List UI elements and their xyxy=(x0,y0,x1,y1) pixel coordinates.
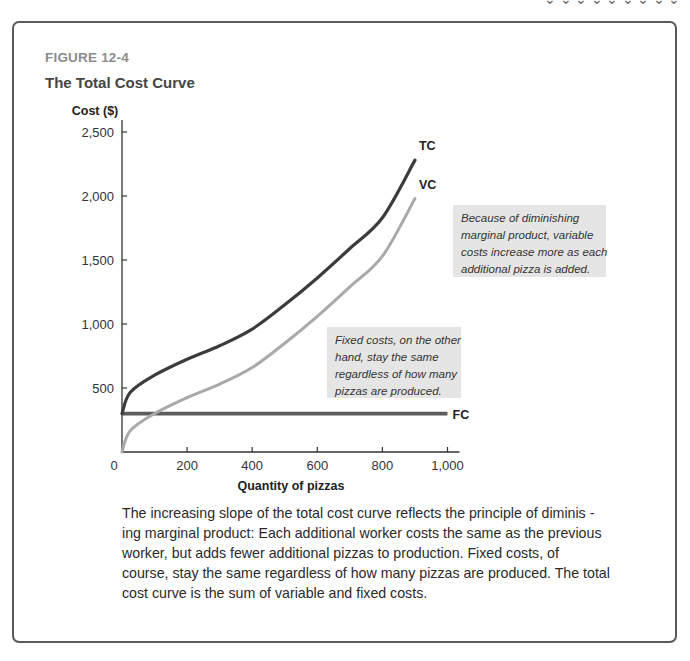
caption-line: ing marginal product: Each additional wo… xyxy=(122,523,592,543)
x-tick-label: 1,000 xyxy=(431,458,464,473)
tc-label: TC xyxy=(419,139,436,153)
x-tick-label: 800 xyxy=(372,458,394,473)
caption-line: The increasing slope of the total cost c… xyxy=(122,503,592,523)
note-line: marginal product, variable xyxy=(461,227,598,244)
x-tick-label: 200 xyxy=(176,458,198,473)
caption-line: cost curve is the sum of variable and fi… xyxy=(122,583,592,603)
y-tick-label: 1,500 xyxy=(81,253,114,268)
x-tick-label: 0 xyxy=(110,458,117,473)
x-tick-label: 600 xyxy=(306,458,328,473)
variable-costs-note: Because of diminishing marginal product,… xyxy=(453,205,606,277)
chart-labels: 5001,0001,5002,0002,50002004006008001,00… xyxy=(72,104,469,493)
y-axis-title: Cost ($) xyxy=(72,104,119,118)
note-line: pizzas are produced. xyxy=(335,383,453,400)
note-line: costs increase more as each xyxy=(461,244,598,261)
x-axis-title: Quantity of pizzas xyxy=(238,479,345,493)
note-line: hand, stay the same xyxy=(335,349,453,366)
fixed-costs-note: Fixed costs, on the other hand, stay the… xyxy=(327,327,461,398)
y-tick-label: 1,000 xyxy=(81,317,114,332)
vc-label: VC xyxy=(419,178,436,192)
figure-caption: The increasing slope of the total cost c… xyxy=(122,503,592,603)
y-tick-label: 2,500 xyxy=(81,125,114,140)
fc-label: FC xyxy=(453,408,470,422)
y-tick-label: 2,000 xyxy=(81,189,114,204)
x-tick-label: 400 xyxy=(241,458,263,473)
note-line: regardless of how many xyxy=(335,366,453,383)
chart-lines xyxy=(122,160,448,452)
note-line: Fixed costs, on the other xyxy=(335,332,453,349)
caption-line: worker, but adds fewer additional pizzas… xyxy=(122,543,592,563)
note-line: Because of diminishing xyxy=(461,210,598,227)
caption-line: course, stay the same regardless of how … xyxy=(122,563,592,583)
y-tick-label: 500 xyxy=(92,381,114,396)
note-line: additional pizza is added. xyxy=(461,261,598,278)
